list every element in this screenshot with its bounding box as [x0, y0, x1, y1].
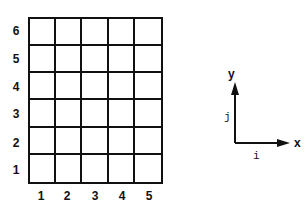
- grid-cell: [135, 155, 161, 182]
- grid-cell: [30, 155, 56, 182]
- row-label-4: 4: [10, 81, 22, 93]
- i-index-label: i: [253, 151, 260, 162]
- grid-cell: [109, 128, 135, 155]
- grid-cell: [109, 46, 135, 73]
- grid-cell: [82, 128, 108, 155]
- x-axis-label: x: [294, 137, 301, 149]
- grid-cell: [56, 100, 82, 127]
- grid-cell: [82, 73, 108, 100]
- grid-cell: [56, 128, 82, 155]
- grid-cell: [30, 73, 56, 100]
- grid-cell: [56, 73, 82, 100]
- grid-cell: [56, 19, 82, 46]
- row-label-1: 1: [10, 164, 22, 176]
- grid-cell: [82, 100, 108, 127]
- row-label-3: 3: [10, 108, 22, 120]
- grid-cell: [135, 128, 161, 155]
- grid-cell: [30, 19, 56, 46]
- grid-cell: [135, 46, 161, 73]
- grid-cell: [30, 128, 56, 155]
- grid-cell: [135, 100, 161, 127]
- grid-cell: [82, 155, 108, 182]
- row-label-5: 5: [10, 53, 22, 65]
- row-label-6: 6: [10, 25, 22, 37]
- col-label-2: 2: [61, 190, 73, 202]
- grid-cell: [82, 46, 108, 73]
- grid-cell: [109, 73, 135, 100]
- col-label-1: 1: [35, 190, 47, 202]
- grid-cell: [56, 155, 82, 182]
- grid-cell: [109, 155, 135, 182]
- grid-cell: [135, 73, 161, 100]
- y-axis-label: y: [228, 68, 235, 80]
- grid: [28, 17, 163, 184]
- j-index-label: j: [224, 112, 231, 123]
- grid-cell: [30, 100, 56, 127]
- grid-cell: [135, 19, 161, 46]
- grid-cell: [82, 19, 108, 46]
- axes-arrows-icon: [220, 70, 300, 150]
- col-label-4: 4: [116, 190, 128, 202]
- grid-cell: [109, 19, 135, 46]
- grid-cell: [56, 46, 82, 73]
- grid-cell: [30, 46, 56, 73]
- col-label-3: 3: [89, 190, 101, 202]
- grid-cell: [109, 100, 135, 127]
- row-label-2: 2: [10, 137, 22, 149]
- col-label-5: 5: [143, 190, 155, 202]
